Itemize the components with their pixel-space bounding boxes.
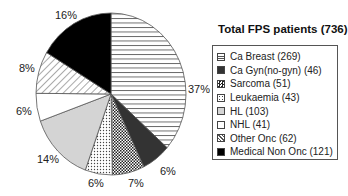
legend-swatch-icon — [217, 121, 225, 129]
legend-swatch-icon — [217, 94, 225, 102]
percent-label: 6% — [160, 165, 176, 177]
legend-label: Other Onc (62) — [230, 133, 297, 144]
percent-label: 8% — [19, 62, 35, 74]
legend-item: Other Onc (62) — [213, 132, 337, 146]
percent-label: 6% — [88, 177, 104, 189]
legend-item: Ca Gyn(no-gyn) (46) — [213, 64, 337, 78]
legend-swatch-icon — [217, 148, 225, 156]
percent-label: 6% — [16, 105, 32, 117]
legend-item: Sarcoma (51) — [213, 77, 337, 91]
legend-title: Total FPS patients (736) — [218, 23, 348, 35]
legend-label: Ca Breast (269) — [230, 51, 301, 62]
legend-swatch-icon — [217, 53, 225, 61]
legend: Ca Breast (269)Ca Gyn(no-gyn) (46)Sarcom… — [212, 45, 338, 160]
legend-label: Sarcoma (51) — [230, 78, 291, 89]
pie-slices — [36, 13, 186, 175]
legend-label: NHL (41) — [230, 119, 270, 130]
percent-label: 7% — [128, 177, 144, 189]
legend-item: HL (103) — [213, 104, 337, 118]
legend-item: NHL (41) — [213, 118, 337, 132]
legend-item: Medical Non Onc (121) — [213, 145, 337, 159]
percent-label: 16% — [55, 9, 77, 21]
legend-swatch-icon — [217, 80, 225, 88]
percent-label: 37% — [188, 83, 210, 95]
legend-label: Ca Gyn(no-gyn) (46) — [230, 65, 322, 76]
legend-item: Leukaemia (43) — [213, 91, 337, 105]
legend-item: Ca Breast (269) — [213, 50, 337, 64]
legend-label: HL (103) — [230, 106, 269, 117]
legend-swatch-icon — [217, 134, 225, 142]
percent-label: 14% — [37, 153, 59, 165]
legend-swatch-icon — [217, 66, 225, 74]
legend-swatch-icon — [217, 107, 225, 115]
legend-label: Leukaemia (43) — [230, 92, 299, 103]
legend-label: Medical Non Onc (121) — [230, 146, 333, 157]
